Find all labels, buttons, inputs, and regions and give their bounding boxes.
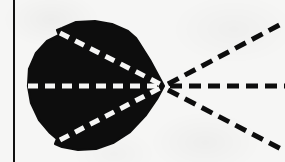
figure-drawing-canvas — [0, 0, 285, 162]
scanned-figure-container — [0, 0, 285, 162]
